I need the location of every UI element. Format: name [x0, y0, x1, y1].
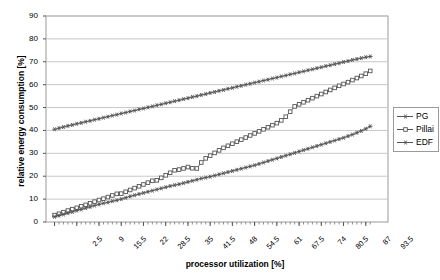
marker-square: [186, 165, 190, 169]
marker-square: [217, 149, 221, 153]
data-point-marker: [79, 204, 83, 208]
data-point-marker: [159, 176, 163, 180]
marker-square: [328, 88, 332, 92]
data-point-marker: [115, 192, 119, 196]
marker-square: [346, 80, 350, 84]
marker-square: [324, 90, 328, 94]
data-point-marker: [360, 74, 364, 78]
data-point-marker: [213, 151, 217, 155]
chart-figure: relative energy consumption [%] processo…: [0, 0, 440, 280]
marker-square: [262, 128, 266, 132]
marker-square: [137, 184, 141, 188]
marker-square: [84, 203, 88, 207]
data-point-marker: [177, 168, 181, 172]
marker-square: [133, 186, 137, 190]
data-point-marker: [262, 128, 266, 132]
data-point-marker: [128, 188, 132, 192]
marker-square: [177, 168, 181, 172]
legend-item-pillai[interactable]: Pillai: [397, 123, 434, 136]
data-point-marker: [191, 166, 195, 170]
marker-square: [355, 76, 359, 80]
marker-square: [311, 96, 315, 100]
marker-square: [297, 103, 301, 107]
marker-square: [208, 154, 212, 158]
data-point-marker: [266, 125, 270, 129]
marker-square: [222, 146, 226, 150]
y-tick-label: 60: [12, 81, 38, 89]
marker-square: [404, 128, 408, 132]
data-point-marker: [164, 174, 168, 178]
data-point-marker: [231, 142, 235, 146]
data-point-marker: [293, 105, 297, 109]
data-point-marker: [364, 72, 368, 76]
data-point-marker: [253, 132, 257, 136]
data-point-marker: [133, 186, 137, 190]
marker-square: [244, 136, 248, 140]
marker-square: [266, 125, 270, 129]
marker-square: [302, 100, 306, 104]
chart-legend: PGPillaiEDF: [393, 107, 439, 152]
y-tick-label: 90: [12, 12, 38, 20]
data-point-marker: [62, 210, 66, 214]
data-point-marker: [315, 94, 319, 98]
marker-square: [142, 183, 146, 187]
marker-square: [288, 110, 292, 114]
data-point-marker: [199, 161, 203, 165]
data-point-marker: [151, 179, 155, 183]
marker-square: [284, 115, 288, 119]
data-point-marker: [248, 134, 252, 138]
data-point-marker: [137, 184, 141, 188]
data-point-marker: [337, 84, 341, 88]
marker-square: [279, 119, 283, 123]
data-point-marker: [93, 200, 97, 204]
data-point-marker: [186, 165, 190, 169]
legend-item-edf[interactable]: EDF: [397, 136, 434, 149]
data-point-marker: [88, 201, 92, 205]
y-tick-label: 30: [12, 149, 38, 157]
data-point-marker: [275, 121, 279, 125]
marker-square: [164, 174, 168, 178]
data-point-marker: [102, 197, 106, 201]
marker-square: [364, 72, 368, 76]
data-point-marker: [342, 82, 346, 86]
marker-square: [97, 198, 101, 202]
legend-label: EDF: [416, 138, 433, 147]
data-point-marker: [155, 179, 159, 183]
data-point-marker: [368, 69, 372, 73]
data-point-marker: [217, 149, 221, 153]
data-point-marker: [239, 138, 243, 142]
marker-square: [204, 157, 208, 161]
marker-square: [315, 94, 319, 98]
data-point-marker: [333, 86, 337, 90]
marker-square: [360, 74, 364, 78]
data-point-marker: [204, 157, 208, 161]
data-point-marker: [403, 141, 408, 145]
data-point-marker: [111, 194, 115, 198]
marker-square: [271, 123, 275, 127]
data-point-marker: [84, 203, 88, 207]
marker-square: [226, 144, 230, 148]
marker-square: [111, 194, 115, 198]
marker-square: [146, 181, 150, 185]
data-point-marker: [97, 198, 101, 202]
marker-square: [293, 105, 297, 109]
y-tick-label: 20: [12, 172, 38, 180]
data-point-marker: [404, 128, 408, 132]
data-point-marker: [168, 171, 172, 175]
y-tick-label: 50: [12, 104, 38, 112]
marker-square: [182, 167, 186, 171]
data-point-marker: [355, 76, 359, 80]
marker-square: [168, 171, 172, 175]
marker-square: [155, 179, 159, 183]
data-point-marker: [306, 98, 310, 102]
legend-item-pg[interactable]: PG: [397, 110, 434, 123]
data-point-marker: [195, 167, 199, 171]
marker-square: [119, 192, 123, 196]
legend-swatch-icon: [397, 125, 413, 134]
data-point-marker: [288, 110, 292, 114]
data-point-marker: [106, 195, 110, 199]
data-point-marker: [66, 209, 70, 213]
marker-square: [128, 188, 132, 192]
marker-square: [239, 138, 243, 142]
marker-square: [320, 92, 324, 96]
